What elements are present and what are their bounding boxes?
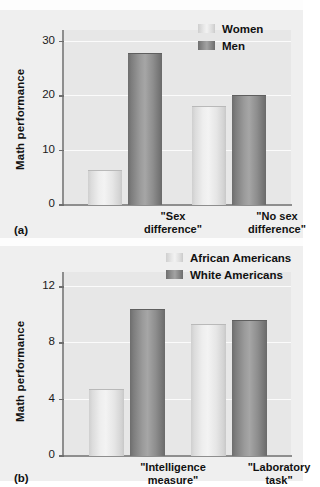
gridline xyxy=(63,286,291,287)
category-label-line: "No sex xyxy=(222,210,320,223)
y-axis-title-a: Math performance xyxy=(14,69,26,170)
category-label-line: difference" xyxy=(118,223,228,236)
category-label: "Laboratorytask" xyxy=(224,461,320,487)
panel-label-a: (a) xyxy=(14,224,28,236)
bar xyxy=(128,53,162,205)
legend-swatch-icon xyxy=(198,41,215,50)
category-label-line: "Sex xyxy=(118,210,228,223)
category-label-line: measure" xyxy=(118,474,228,487)
y-axis-line-a xyxy=(62,30,64,205)
legend-label: African Americans xyxy=(190,252,291,264)
y-axis-line-b xyxy=(62,272,64,456)
y-axis-title-b: Math performance xyxy=(14,321,26,422)
bar xyxy=(88,170,122,205)
bar xyxy=(89,389,124,456)
legend-label: White Americans xyxy=(190,269,283,281)
y-axis-tick-label: 0 xyxy=(27,449,55,461)
bar xyxy=(232,320,267,456)
y-axis-tick-label: 10 xyxy=(27,144,55,156)
panel-label-b: (b) xyxy=(14,472,29,484)
bar xyxy=(191,324,226,456)
y-axis-tick-label: 4 xyxy=(27,393,55,405)
y-axis-tick xyxy=(59,399,64,401)
y-axis-tick-label: 0 xyxy=(27,198,55,210)
legend-b: African AmericansWhite Americans xyxy=(166,251,291,281)
chart-panel-b: Math performance 04812 "Intelligencemeas… xyxy=(0,246,303,481)
bar xyxy=(192,106,226,205)
bar xyxy=(130,309,165,456)
category-label-line: "Laboratory xyxy=(224,461,320,474)
legend-swatch-icon xyxy=(198,24,215,33)
category-label-line: task" xyxy=(224,474,320,487)
y-axis-tick xyxy=(59,41,64,43)
legend-item: Women xyxy=(198,22,263,35)
legend-item: White Americans xyxy=(166,268,291,281)
legend-swatch-icon xyxy=(166,253,183,262)
y-axis-tick-label: 12 xyxy=(27,280,55,292)
legend-item: Men xyxy=(198,39,263,52)
category-label-line: difference" xyxy=(222,223,320,236)
y-axis-tick-label: 30 xyxy=(27,35,55,47)
category-label: "Intelligencemeasure" xyxy=(118,461,228,487)
legend-a: WomenMen xyxy=(198,22,263,52)
chart-panel-a: Math performance 0102030 "Sexdifference"… xyxy=(0,10,303,242)
y-axis-tick xyxy=(59,95,64,97)
y-axis-tick xyxy=(59,286,64,288)
legend-label: Women xyxy=(222,23,263,35)
category-label: "Sexdifference" xyxy=(118,210,228,236)
y-axis-tick-label: 20 xyxy=(27,89,55,101)
category-label-line: "Intelligence xyxy=(118,461,228,474)
bar xyxy=(232,95,266,205)
legend-item: African Americans xyxy=(166,251,291,264)
y-axis-tick xyxy=(59,342,64,344)
y-axis-tick xyxy=(59,455,64,457)
y-axis-tick-label: 8 xyxy=(27,336,55,348)
legend-label: Men xyxy=(222,40,245,52)
category-label: "No sexdifference" xyxy=(222,210,320,236)
y-axis-tick xyxy=(59,150,64,152)
y-axis-tick xyxy=(59,204,64,206)
legend-swatch-icon xyxy=(166,270,183,279)
